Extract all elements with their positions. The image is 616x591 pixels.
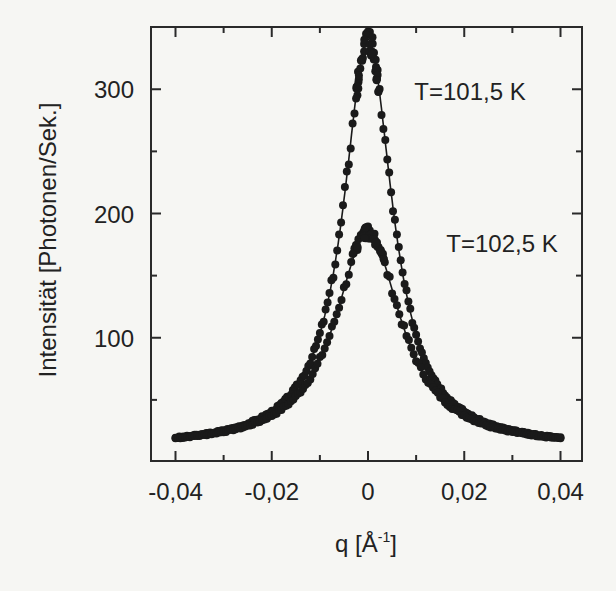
data-point	[342, 280, 350, 288]
data-point	[335, 231, 343, 239]
data-point	[368, 50, 376, 58]
data-point	[379, 125, 387, 133]
data-point	[410, 350, 418, 358]
data-point	[335, 304, 343, 312]
data-point	[355, 71, 363, 79]
data-point	[377, 248, 385, 256]
data-point	[354, 244, 362, 252]
data-point	[414, 337, 422, 345]
intensity-chart: -0,04-0,0200,020,04100200300 T=101,5 K T…	[0, 0, 616, 591]
data-point	[374, 88, 382, 96]
data-point	[341, 183, 349, 191]
fit-line-t102	[176, 232, 561, 438]
data-point	[349, 250, 357, 258]
data-point	[338, 296, 346, 304]
data-point	[349, 120, 357, 128]
data-point	[380, 255, 388, 263]
data-point	[393, 301, 401, 309]
data-point	[399, 268, 407, 276]
data-point	[330, 318, 338, 326]
data-point	[381, 136, 389, 144]
data-point	[389, 207, 397, 215]
y-axis-label: Intensität [Photonen/Sek.]	[34, 103, 61, 378]
data-point	[405, 336, 413, 344]
data-point	[410, 324, 418, 332]
data-point	[352, 95, 360, 103]
data-point	[347, 258, 355, 266]
data-point	[308, 353, 316, 361]
data-point	[391, 216, 399, 224]
x-tick-label: 0,04	[537, 478, 584, 505]
x-axis-label-base: q [Å	[335, 530, 378, 557]
data-point	[353, 82, 361, 90]
data-point	[324, 299, 332, 307]
data-point	[373, 76, 381, 84]
data-point	[404, 298, 412, 306]
data-point	[320, 318, 328, 326]
data-point	[395, 243, 403, 251]
data-point	[383, 155, 391, 163]
data-point	[347, 145, 355, 153]
data-point	[316, 329, 324, 337]
data-point	[333, 246, 341, 254]
data-point	[331, 261, 339, 269]
data-point	[326, 289, 334, 297]
data-point	[406, 305, 414, 313]
x-tick-label: 0	[361, 478, 374, 505]
data-point	[393, 231, 401, 239]
data-point	[351, 109, 359, 117]
data-point	[378, 111, 386, 119]
data-point	[357, 57, 365, 65]
y-tick-label: 100	[94, 325, 134, 352]
data-point	[322, 306, 330, 314]
figure-page: -0,04-0,0200,020,04100200300 T=101,5 K T…	[0, 0, 616, 591]
y-tick-label: 200	[94, 201, 134, 228]
data-point	[397, 256, 405, 264]
data-point	[337, 219, 345, 227]
data-point	[403, 286, 411, 294]
data-point	[557, 434, 565, 442]
data-point	[343, 167, 351, 175]
x-tick-label: 0,02	[441, 478, 488, 505]
data-point	[395, 310, 403, 318]
data-point	[345, 271, 353, 279]
x-tick-label: -0,02	[244, 478, 299, 505]
x-axis-label: q [Å-1]	[335, 529, 397, 557]
y-tick-label: 300	[94, 76, 134, 103]
data-point	[339, 201, 347, 209]
data-point	[387, 188, 395, 196]
data-point	[369, 33, 377, 41]
data-point	[417, 363, 425, 371]
x-axis-label-end: ]	[390, 530, 397, 557]
data-point	[372, 238, 380, 246]
data-point	[360, 36, 368, 44]
data-point	[345, 160, 353, 168]
x-axis-label-sup: -1	[378, 529, 391, 545]
data-point	[312, 342, 320, 350]
data-point	[386, 273, 394, 281]
data-point	[329, 274, 337, 282]
data-point	[361, 234, 369, 242]
x-tick-label: -0,04	[148, 478, 203, 505]
data-point	[361, 224, 369, 232]
data-point	[385, 169, 393, 177]
annotation-t102: T=102,5 K	[446, 230, 557, 257]
tick-labels: -0,04-0,0200,020,04100200300	[94, 76, 584, 505]
data-point	[400, 322, 408, 330]
data-point	[326, 332, 334, 340]
annotation-t101: T=101,5 K	[414, 78, 525, 105]
